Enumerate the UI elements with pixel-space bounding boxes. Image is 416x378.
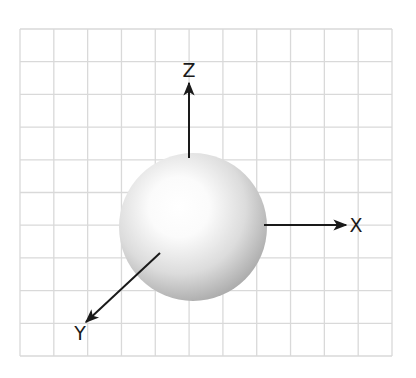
x-axis-label: X [349,214,362,236]
z-axis: Z [182,59,195,158]
y-axis-label: Y [73,322,86,344]
coordinate-diagram: ZXY [0,0,416,378]
z-axis-label: Z [182,59,195,81]
sphere [119,153,267,301]
y-axis-arrow-icon [86,253,160,322]
